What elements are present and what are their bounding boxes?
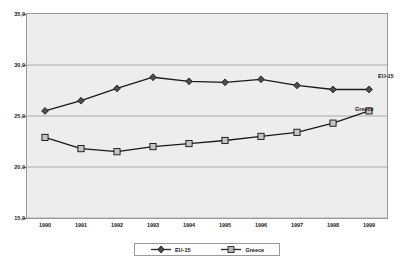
data-point: [186, 140, 192, 146]
y-axis-tick-label: 30,0: [0, 65, 25, 71]
series-line-greece: [45, 111, 369, 152]
data-point: [78, 97, 85, 104]
y-axis-tick-label: 25,0: [0, 116, 25, 122]
x-axis-tick-label: 1991: [61, 222, 101, 228]
y-axis-tick-label: 15,0: [0, 218, 25, 224]
data-point: [294, 82, 301, 89]
y-axis-tick-label: 35,0: [0, 14, 25, 20]
data-point: [150, 74, 157, 81]
data-point: [222, 79, 229, 86]
x-axis-tick-label: 1993: [133, 222, 173, 228]
x-axis-tick-label: 1995: [205, 222, 245, 228]
data-point: [42, 108, 49, 115]
data-point: [114, 85, 121, 92]
series-line-eu-15: [45, 77, 369, 111]
x-axis-tick-label: 1997: [277, 222, 317, 228]
x-axis-tick-label: 1990: [25, 222, 65, 228]
data-point: [186, 78, 193, 85]
x-axis-tick-label: 1996: [241, 222, 281, 228]
series-annotation-greece: Greece: [355, 106, 374, 112]
data-point: [258, 133, 264, 139]
x-axis-tick-label: 1999: [349, 222, 389, 228]
x-axis-tick-label: 1992: [97, 222, 137, 228]
data-point: [258, 76, 265, 83]
data-point: [366, 86, 373, 93]
legend-label-greece: Greece: [245, 247, 264, 253]
data-point: [330, 86, 337, 93]
plot-area: [26, 13, 388, 219]
data-point: [294, 129, 300, 135]
data-point: [150, 144, 156, 150]
data-point: [78, 146, 84, 152]
x-axis-tick-label: 1998: [313, 222, 353, 228]
data-point: [114, 149, 120, 155]
x-axis-tick-label: 1994: [169, 222, 209, 228]
diamond-marker-icon: [150, 245, 172, 254]
data-point: [330, 120, 336, 126]
legend-item-eu15: EU-15: [150, 245, 191, 254]
line-chart: 15,020,025,030,035,0 1990199119921993199…: [0, 0, 414, 269]
chart-legend: EU-15 Greece: [134, 243, 280, 256]
data-point: [42, 134, 48, 140]
y-axis-tick-label: 20,0: [0, 167, 25, 173]
legend-item-greece: Greece: [220, 245, 264, 254]
series-annotation-eu15: EU-15: [378, 73, 394, 79]
plot-canvas: [27, 14, 387, 218]
legend-label-eu15: EU-15: [175, 247, 191, 253]
square-marker-icon: [220, 245, 242, 254]
data-point: [222, 137, 228, 143]
